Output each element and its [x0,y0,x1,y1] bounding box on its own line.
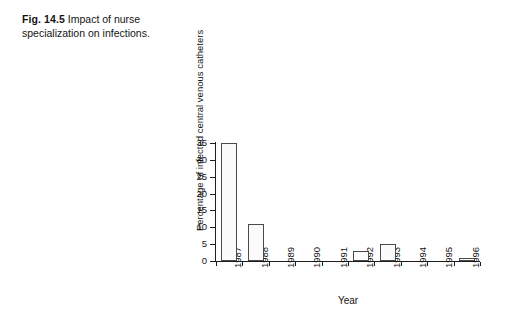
y-tick-label: 5 [202,238,207,249]
y-tick-label: 10 [196,221,207,232]
x-axis-title: Year [216,295,480,306]
bar-chart: Percentage of infected central venous ca… [168,0,514,321]
y-tick-label: 15 [196,204,207,215]
y-tick: 35 [210,143,215,144]
y-tick: 25 [210,177,215,178]
y-tick: 20 [210,194,215,195]
bar [459,258,475,261]
y-tick: 0 [210,261,215,262]
bar [248,224,264,261]
figure-number: Fig. 14.5 [22,13,65,25]
figure-caption: Fig. 14.5 Impact of nurse specialization… [22,12,174,40]
y-tick: 5 [210,244,215,245]
x-tick [216,262,217,266]
y-tick-label: 20 [196,188,207,199]
bar [380,244,396,261]
x-tick [322,262,323,266]
y-axis-title: Percentage of infected central venous ca… [195,31,205,231]
y-tick-label: 30 [196,154,207,165]
y-tick-label: 25 [196,171,207,182]
bar [353,251,369,261]
plot-area [216,143,480,261]
bar [221,143,237,261]
y-tick: 30 [210,160,215,161]
y-tick: 10 [210,227,215,228]
y-tick-label: 0 [202,255,207,266]
x-tick [454,262,455,266]
y-tick: 15 [210,210,215,211]
y-tick-label: 35 [196,137,207,148]
